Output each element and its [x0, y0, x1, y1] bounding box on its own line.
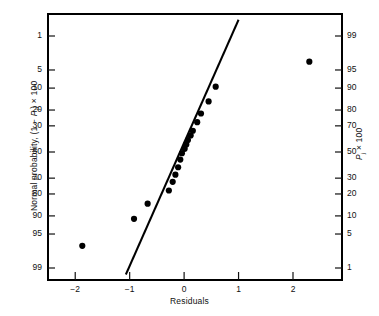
y-axis-right-tick-5: 5: [347, 228, 377, 238]
y-axis-right-tick-10: 10: [347, 210, 377, 220]
x-axis-tick-1: −1: [115, 284, 145, 294]
data-point-7: [177, 156, 183, 162]
x-axis-tick-4: 2: [278, 284, 308, 294]
y-axis-right-tick-20: 20: [347, 188, 377, 198]
data-point-6: [175, 164, 181, 170]
y-axis-left-tick-10: 10: [8, 82, 42, 92]
y-axis-left-tick-90: 90: [8, 210, 42, 220]
y-axis-right-tick-30: 30: [347, 172, 377, 182]
data-point-16: [206, 98, 212, 104]
data-point-0: [79, 243, 85, 249]
plot-canvas: [0, 0, 379, 316]
x-axis-title: Residuals: [0, 296, 379, 306]
y-axis-right-tick-80: 80: [347, 104, 377, 114]
data-point-18: [306, 59, 312, 65]
y-axis-left-tick-5: 5: [8, 64, 42, 74]
y-axis-left-tick-20: 20: [8, 104, 42, 114]
y-axis-left-tick-80: 80: [8, 188, 42, 198]
data-point-1: [131, 216, 137, 222]
data-point-15: [198, 110, 204, 116]
data-point-17: [213, 84, 219, 90]
y-axis-right-tick-99: 99: [347, 30, 377, 40]
x-axis-tick-2: 0: [169, 284, 199, 294]
y-axis-left-tick-99: 99: [8, 262, 42, 272]
y-axis-left-tick-1: 1: [8, 30, 42, 40]
data-point-4: [170, 179, 176, 185]
y-axis-right-tick-50: 50: [347, 146, 377, 156]
y-axis-right-tick-95: 95: [347, 64, 377, 74]
data-point-5: [172, 172, 178, 178]
y-axis-left-tick-95: 95: [8, 228, 42, 238]
normal-probability-plot: Normal probability, (1 − Pj) × 100 Pj × …: [0, 0, 379, 316]
data-point-2: [145, 201, 151, 207]
y-axis-right-tick-70: 70: [347, 120, 377, 130]
data-point-13: [190, 128, 196, 134]
data-point-3: [166, 187, 172, 193]
y-axis-right-tick-1: 1: [347, 262, 377, 272]
y-axis-left-tick-50: 50: [8, 146, 42, 156]
data-points: [79, 59, 312, 249]
axis-ticks: [48, 36, 342, 280]
x-axis-tick-3: 1: [224, 284, 254, 294]
y-axis-left-tick-30: 30: [8, 120, 42, 130]
data-point-14: [194, 119, 200, 125]
plot-frame: [48, 14, 342, 280]
x-axis-tick-0: −2: [60, 284, 90, 294]
y-axis-left-tick-70: 70: [8, 172, 42, 182]
y-axis-right-tick-90: 90: [347, 82, 377, 92]
